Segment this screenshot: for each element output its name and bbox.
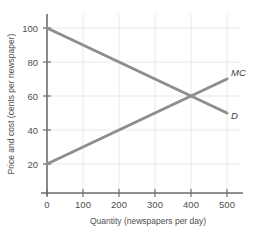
xtick-label-200: 200 [111, 199, 127, 210]
ytick-label-100: 100 [22, 23, 38, 34]
xtick-label-0: 0 [44, 199, 49, 210]
curve-label-mc: MC [231, 67, 246, 78]
x-axis-title: Quantity (newspapers per day) [90, 216, 206, 226]
xtick-label-500: 500 [219, 199, 235, 210]
curve-label-d: D [231, 110, 238, 121]
ytick-label-20: 20 [27, 159, 38, 170]
ytick-label-40: 40 [27, 125, 38, 136]
ytick-label-60: 60 [27, 91, 38, 102]
y-axis-title: Price and cost (cents per newspaper) [6, 33, 16, 174]
ytick-label-80: 80 [27, 57, 38, 68]
xtick-label-300: 300 [147, 199, 163, 210]
supply-demand-line-chart: 100 80 60 40 20 0 100 200 300 400 500 Qu… [0, 0, 256, 236]
xtick-label-100: 100 [75, 199, 91, 210]
chart-figure: 100 80 60 40 20 0 100 200 300 400 500 Qu… [0, 0, 256, 236]
xtick-label-400: 400 [183, 199, 199, 210]
chart-background [0, 0, 256, 236]
